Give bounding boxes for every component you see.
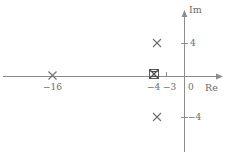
real-axis-label: Re xyxy=(205,83,218,93)
origin-tick-label: 0 xyxy=(188,83,194,92)
plot-canvas xyxy=(0,0,228,161)
pole-marker-lower-complex xyxy=(153,113,161,121)
pole-marker-minus4-double xyxy=(150,70,159,79)
pole-zero-plot: Im Re 0 −16 −4 −3 4 −4 xyxy=(0,0,228,161)
real-axis-arrowhead xyxy=(216,74,223,80)
tick-label-imag-4: 4 xyxy=(190,39,196,48)
tick-label-real-minus3: −3 xyxy=(163,83,176,92)
tick-label-real-minus4: −4 xyxy=(147,83,160,92)
imag-axis-arrowhead xyxy=(182,10,188,17)
tick-label-real-minus16: −16 xyxy=(43,83,62,92)
imag-axis-label: Im xyxy=(189,5,202,15)
tick-label-imag-minus4: −4 xyxy=(188,113,201,122)
pole-marker-minus16 xyxy=(49,72,57,80)
pole-marker-upper-complex xyxy=(153,39,161,47)
